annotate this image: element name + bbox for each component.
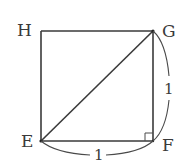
vertex-label-G: G — [162, 21, 176, 41]
diagonal-EG — [41, 31, 153, 141]
square-diagram: H G E F 1 1 — [0, 0, 182, 164]
vertex-label-E: E — [21, 131, 33, 151]
vertex-label-H: H — [17, 20, 32, 40]
measure-label-GF: 1 — [164, 80, 174, 98]
vertex-label-F: F — [162, 135, 174, 155]
measure-label-EF: 1 — [94, 146, 104, 164]
measure-arc-EF-right — [106, 141, 153, 155]
right-angle-marker — [145, 133, 153, 141]
measure-arc-EF-left — [41, 141, 90, 155]
